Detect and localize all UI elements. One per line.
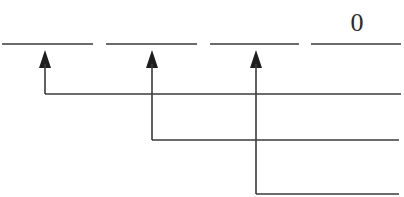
arrow-1 [39,50,401,94]
blank-value-4: 0 [351,8,364,37]
place-value-diagram: 0 [0,0,404,197]
arrow-2 [146,50,399,140]
arrow-3 [250,50,399,194]
